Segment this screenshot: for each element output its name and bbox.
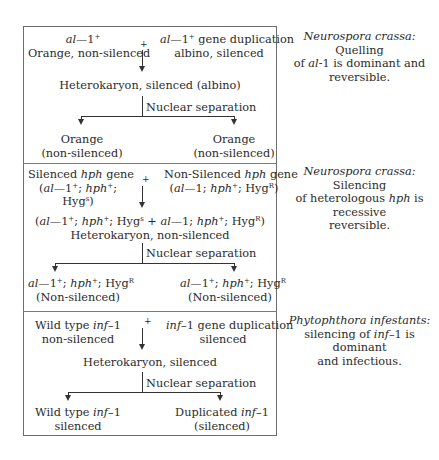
arrow-down-icon xyxy=(139,344,145,350)
parent-right: inf–1 gene duplication silenced xyxy=(166,319,280,346)
plus-sign: + xyxy=(140,39,148,49)
parent-left: Wild type inf–1 non-silenced xyxy=(28,319,128,346)
parent-right: al—1+ gene duplication albino, silenced xyxy=(160,33,278,60)
separation-bar xyxy=(55,263,235,264)
parent-left: al—1+ Orange, non-silenced xyxy=(28,33,138,60)
child-right: Orange (non-silenced) xyxy=(184,133,284,160)
heterokaryon-label: Heterokaryon, non-silenced xyxy=(23,229,277,243)
child-left: Orange (non-silenced) xyxy=(28,133,136,160)
merge-arrow-line xyxy=(142,186,143,203)
arrow-down-icon xyxy=(139,202,145,208)
merge-arrow-line xyxy=(142,328,143,345)
separation-label: Nuclear separation xyxy=(146,101,256,115)
heterokaryon-genotype: (al—1+; hph+; Hygs + al—1; hph+; HygR) xyxy=(23,215,277,229)
caption-al1: Neurospora crassa: Quelling of al-1 is d… xyxy=(282,30,437,84)
child-left: Wild type inf–1 silenced xyxy=(28,406,128,433)
arrow-down-icon xyxy=(65,395,71,401)
caption-inf1: Phytophthora infestants: silencing of in… xyxy=(282,314,437,368)
separation-label: Nuclear separation xyxy=(146,377,256,391)
separation-bar xyxy=(81,116,235,117)
separation-stem xyxy=(142,96,143,116)
child-right: Duplicated inf–1 (silenced) xyxy=(170,406,274,433)
caption-hph: Neurospora crassa: Silencing of heterolo… xyxy=(282,165,437,233)
arrow-down-icon xyxy=(231,266,237,272)
heterokaryon-label: Heterokaryon, silenced (albino) xyxy=(23,79,277,93)
parent-left: Silenced hph gene (al—1+; hph+; Hygs) xyxy=(28,168,128,209)
separation-label: Nuclear separation xyxy=(146,247,256,261)
child-left: al—1+; hph+; HygR (Non-silenced) xyxy=(28,277,128,304)
separation-stem xyxy=(142,372,143,392)
arrow-down-icon xyxy=(217,395,223,401)
plus-sign: + xyxy=(144,316,152,326)
parent-right: Non-Silenced hph gene (al—1; hph+; HygR) xyxy=(164,168,284,195)
merge-arrow-line xyxy=(142,50,143,67)
heterokaryon-label: Heterokaryon, silenced xyxy=(23,356,277,370)
arrow-down-icon xyxy=(52,266,58,272)
plus-sign: + xyxy=(142,174,150,184)
arrow-down-icon xyxy=(139,66,145,72)
section-divider-1 xyxy=(23,163,277,164)
child-right: al—1+; hph+; HygR (Non-silenced) xyxy=(180,277,280,304)
section-divider-2 xyxy=(23,311,277,312)
separation-bar xyxy=(68,392,221,393)
separation-stem xyxy=(142,243,143,263)
arrow-down-icon xyxy=(231,119,237,125)
arrow-down-icon xyxy=(78,119,84,125)
